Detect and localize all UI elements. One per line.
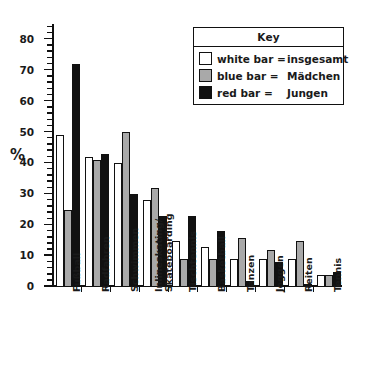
y-tick-minor	[47, 63, 52, 64]
x-axis-label: Basketball	[217, 236, 227, 292]
y-tick-minor	[47, 88, 52, 89]
bar-insgesamt-6	[230, 259, 238, 287]
y-tick-minor	[47, 242, 52, 243]
y-tick-minor	[47, 236, 52, 237]
y-tick-major: 70	[44, 69, 52, 71]
y-tick-label: 20	[19, 218, 34, 230]
bar-insgesamt-2	[114, 163, 122, 287]
y-tick-major: 60	[44, 100, 52, 102]
y-tick-minor	[47, 137, 52, 138]
y-tick-major: 80	[44, 38, 52, 40]
y-axis-line	[52, 24, 54, 287]
y-tick-label: 10	[19, 249, 34, 261]
y-tick-minor	[47, 119, 52, 120]
bar-insgesamt-7	[259, 259, 267, 287]
y-tick-minor	[47, 168, 52, 169]
y-tick-minor	[47, 230, 52, 231]
y-tick-minor	[47, 57, 52, 58]
x-axis-label: Reiten	[304, 257, 314, 292]
x-axis-label: Tanzen	[246, 255, 256, 292]
y-tick-minor	[47, 279, 52, 280]
y-tick-label: 70	[19, 64, 34, 76]
y-tick-major: 40	[44, 162, 52, 164]
y-tick-minor	[47, 106, 52, 107]
y-tick-minor	[47, 143, 52, 144]
y-tick-label: 30	[19, 187, 34, 199]
y-tick-label: 80	[19, 33, 34, 45]
y-tick-label: 60	[19, 95, 34, 107]
y-tick-major: 30	[44, 193, 52, 195]
y-tick-major: 20	[44, 224, 52, 226]
bar-insgesamt-0	[56, 135, 64, 287]
bar-chart: Key white bar = insgesamt blue bar = Mäd…	[0, 0, 381, 370]
y-tick-minor	[47, 125, 52, 126]
x-axis-label: Schwimmen	[130, 228, 140, 292]
y-tick-minor	[47, 211, 52, 212]
y-tick-label: 40	[19, 156, 34, 168]
y-tick-major: 10	[44, 254, 52, 256]
bar-insgesamt-9	[317, 275, 325, 287]
x-axis-label: Tischtennis	[188, 231, 198, 292]
y-tick-minor	[47, 273, 52, 274]
y-tick-minor	[47, 267, 52, 268]
bar-insgesamt-8	[288, 259, 296, 287]
y-tick-major: 50	[44, 131, 52, 133]
y-tick-minor	[47, 180, 52, 181]
bar-insgesamt-5	[201, 247, 209, 287]
y-tick-minor	[47, 218, 52, 219]
y-tick-minor	[47, 248, 52, 249]
y-tick-minor	[47, 81, 52, 82]
y-tick-label: 50	[19, 126, 34, 138]
x-axis-label: Inlineskating/	[154, 219, 164, 292]
x-axis-label: Fußball	[72, 253, 82, 292]
y-tick-minor	[47, 75, 52, 76]
y-tick-minor	[47, 261, 52, 262]
y-tick-minor	[47, 199, 52, 200]
y-tick-minor	[47, 174, 52, 175]
bar-insgesamt-1	[85, 157, 93, 287]
y-tick-minor	[47, 149, 52, 150]
x-axis-label: Skateboarding	[164, 213, 174, 292]
bar-insgesamt-3	[143, 200, 151, 287]
y-tick-minor	[47, 156, 52, 157]
y-tick-minor	[47, 187, 52, 188]
y-tick-minor	[47, 50, 52, 51]
y-tick-minor	[47, 44, 52, 45]
y-tick-minor	[47, 32, 52, 33]
x-axis-label: Radfahren	[101, 236, 111, 292]
y-tick-major: 0	[44, 285, 52, 287]
y-tick-minor	[47, 205, 52, 206]
x-axis-label: Tennis	[333, 258, 343, 292]
y-tick-minor	[47, 26, 52, 27]
x-axis-label: Joggen	[275, 255, 285, 292]
y-tick-label: 0	[27, 280, 34, 292]
y-tick-minor	[47, 112, 52, 113]
y-tick-minor	[47, 94, 52, 95]
